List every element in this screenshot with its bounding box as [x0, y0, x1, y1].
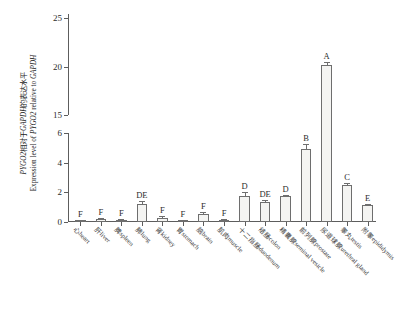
- significance-label: F: [78, 209, 83, 219]
- error-bar-cap: [303, 144, 309, 145]
- y-tick-label: 6: [58, 128, 63, 138]
- y-axis-title-gene-pygo2: PYGO2: [20, 152, 28, 174]
- x-axis-label: 心heart: [72, 224, 93, 245]
- significance-label: DE: [259, 189, 270, 199]
- error-bar-cap: [98, 218, 104, 219]
- significance-label: A: [324, 51, 330, 61]
- significance-label: F: [160, 205, 165, 215]
- significance-label: DE: [136, 190, 147, 200]
- y-tick-label: 20: [53, 62, 62, 72]
- bar: [116, 220, 127, 222]
- error-bar-cap: [344, 183, 350, 184]
- y-tick-mark: [64, 133, 68, 134]
- significance-label: D: [283, 184, 289, 194]
- error-bar-cap: [262, 200, 268, 201]
- error-bar-cap: [77, 220, 83, 221]
- error-bar-cap: [242, 192, 248, 193]
- y-axis-title-gene-gapdh: GAPDH: [20, 107, 28, 131]
- error-bar-cap: [159, 216, 165, 217]
- error-bar-cap: [180, 220, 186, 221]
- significance-label: F: [119, 208, 124, 218]
- y-tick-mark: [64, 115, 68, 116]
- y-tick-label: 4: [58, 158, 63, 168]
- significance-label: E: [365, 193, 370, 203]
- bar: [137, 204, 148, 222]
- bar: [301, 149, 312, 222]
- y-tick-mark: [64, 163, 68, 164]
- bar: [157, 218, 168, 222]
- significance-label: F: [222, 208, 227, 218]
- significance-label: C: [344, 172, 350, 182]
- error-bar-cap: [200, 212, 206, 213]
- y-tick-label: 2: [58, 187, 63, 197]
- y-tick-mark: [64, 67, 68, 68]
- bar: [96, 219, 107, 222]
- bar: [342, 185, 353, 222]
- y-tick-mark: [64, 192, 68, 193]
- y-tick-label: 0: [58, 217, 63, 227]
- y-tick-mark: [64, 18, 68, 19]
- plot-area: 0246152025 FFFDEFFFFDDEDBACE: [68, 14, 376, 222]
- x-axis-label: 脾spleen: [113, 224, 137, 248]
- y-tick-label: 15: [53, 110, 62, 120]
- bar: [280, 196, 291, 222]
- significance-label: B: [303, 133, 309, 143]
- significance-label: F: [98, 207, 103, 217]
- bar: [219, 220, 230, 222]
- significance-label: F: [201, 201, 206, 211]
- y-axis-title-cn: PYGO2相对于GAPDH的表达水平: [20, 55, 30, 192]
- y-tick-label: 25: [53, 13, 62, 23]
- bar: [260, 202, 271, 222]
- x-axis-label: 肺lung: [134, 224, 154, 244]
- bar: [321, 65, 332, 222]
- bar: [239, 196, 250, 222]
- significance-label: F: [181, 209, 186, 219]
- error-bar-cap: [365, 204, 371, 205]
- x-axis-label: 肝liver: [93, 224, 114, 245]
- error-bar-cap: [283, 195, 289, 196]
- error-bar-cap: [221, 219, 227, 220]
- bar: [362, 205, 373, 222]
- y-axis-break: [67, 115, 71, 133]
- error-bar-cap: [324, 62, 330, 63]
- y-axis-title: PYGO2相对于GAPDH的表达水平 Expression level of P…: [14, 8, 44, 238]
- bar: [198, 214, 209, 222]
- x-axis-labels: 心heart肝liver脾spleen肺lung肾kidney胃stomach脑…: [68, 224, 384, 304]
- significance-label: D: [241, 181, 247, 191]
- y-tick-mark: [64, 222, 68, 223]
- error-bar-cap: [139, 201, 145, 202]
- error-bar-cap: [118, 219, 124, 220]
- y-axis-title-en: Expression level of PYGO2 relative to GA…: [29, 55, 39, 192]
- x-axis-label: 肾kidney: [154, 224, 179, 249]
